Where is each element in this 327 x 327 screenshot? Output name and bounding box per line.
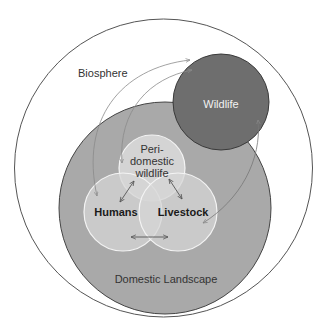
- diagram-canvas: Biosphere Wildlife Peri- domestic wildli…: [0, 0, 327, 327]
- livestock-label: Livestock: [158, 206, 210, 218]
- wildlife-label: Wildlife: [203, 98, 238, 110]
- biosphere-label: Biosphere: [78, 67, 128, 79]
- peri-domestic-label-line2: domestic: [130, 155, 175, 167]
- domestic-landscape-label: Domestic Landscape: [115, 273, 218, 285]
- peri-domestic-label-line3: wildlife: [134, 167, 168, 179]
- peri-domestic-label-line1: Peri-: [140, 143, 164, 155]
- cropped-caption-fragment: [8, 318, 98, 322]
- humans-label: Humans: [94, 206, 137, 218]
